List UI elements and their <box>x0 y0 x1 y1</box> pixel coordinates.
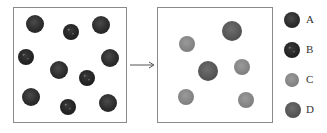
particle-b <box>18 49 34 65</box>
legend-label-d: D <box>306 104 314 115</box>
particle-a <box>99 94 117 112</box>
legend-label-c: C <box>306 74 313 85</box>
legend-particle-b-icon <box>284 42 300 58</box>
particle-a <box>26 15 44 33</box>
particle-a <box>22 88 40 106</box>
particle-c <box>179 36 195 52</box>
particle-c <box>238 92 254 108</box>
particle-c <box>234 59 250 75</box>
legend-label-b: B <box>306 44 313 55</box>
particle-b <box>79 70 95 86</box>
legend-particle-c-icon <box>285 73 299 87</box>
particle-b <box>60 99 76 115</box>
reaction-arrow-icon <box>0 0 327 133</box>
particle-a <box>50 61 68 79</box>
particle-d <box>198 61 218 81</box>
particle-b <box>63 24 79 40</box>
particle-a <box>92 16 110 34</box>
particle-d <box>222 21 242 41</box>
legend-particle-d-icon <box>285 102 301 118</box>
particle-c <box>178 89 194 105</box>
legend-particle-a-icon <box>284 12 300 28</box>
legend-label-a: A <box>306 14 314 25</box>
particle-a <box>101 49 119 67</box>
